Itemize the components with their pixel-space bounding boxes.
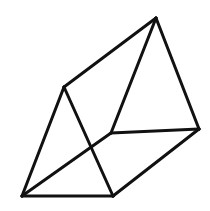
left-upper-vertex: [63, 86, 66, 89]
right-vertex: [198, 128, 201, 131]
bottom-middle-vertex: [112, 195, 115, 198]
figure-canvas: [0, 0, 210, 211]
triangular-prism-wireframe: [0, 0, 210, 211]
bottom-left-vertex: [21, 195, 24, 198]
top-apex-vertex: [155, 17, 158, 20]
center-junction-vertex: [110, 132, 113, 135]
